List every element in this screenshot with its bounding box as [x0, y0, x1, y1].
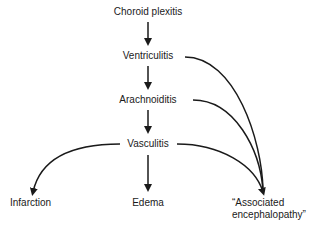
node-infarction: Infarction [10, 197, 51, 209]
node-edema: Edema [132, 197, 164, 209]
edges-layer [0, 0, 322, 226]
node-choroid-plexitis: Choroid plexitis [114, 6, 182, 18]
node-associated-line2: encephalopathy” [232, 209, 306, 221]
node-associated-line1: “Associated [232, 197, 306, 209]
arrow-ventriculitis-to-encephalopathy [185, 57, 263, 190]
arrow-vasculitis-to-encephalopathy [177, 144, 263, 192]
node-arachnoiditis: Arachnoiditis [119, 94, 176, 106]
node-ventriculitis: Ventriculitis [123, 50, 174, 62]
arrow-arachnoiditis-to-encephalopathy [193, 100, 263, 190]
arrow-vasculitis-to-infarction [33, 144, 120, 192]
node-associated-encephalopathy: “Associated encephalopathy” [232, 197, 306, 221]
node-vasculitis: Vasculitis [127, 138, 169, 150]
